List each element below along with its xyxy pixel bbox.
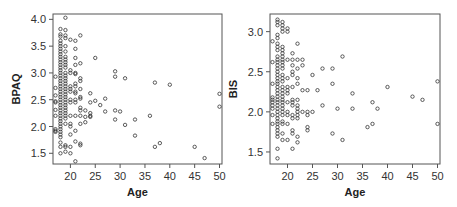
data-point: [74, 140, 77, 143]
data-point: [94, 56, 97, 59]
data-point: [271, 82, 274, 85]
data-point: [331, 82, 334, 85]
data-point: [291, 64, 294, 67]
data-point: [296, 141, 299, 144]
data-point: [271, 122, 274, 125]
x-axis-label: Age: [345, 186, 366, 198]
data-point: [64, 28, 67, 31]
data-point: [306, 89, 309, 92]
data-point: [64, 50, 67, 53]
data-point: [54, 108, 57, 111]
data-point: [291, 85, 294, 88]
data-point: [153, 145, 156, 148]
data-point: [69, 38, 72, 41]
data-point: [316, 89, 319, 92]
data-point: [351, 107, 354, 110]
data-point: [113, 109, 116, 112]
data-point: [113, 118, 116, 121]
data-point: [366, 125, 369, 128]
data-points: [54, 16, 221, 163]
data-point: [133, 118, 136, 121]
data-point: [301, 58, 304, 61]
data-point: [103, 97, 106, 100]
data-point: [218, 105, 221, 108]
bpaq-vs-age-scatter: 1.52.02.53.03.54.0 20253035404550 Age BP…: [10, 13, 226, 198]
y-tick-label: 4.0: [31, 13, 46, 25]
data-point: [336, 107, 339, 110]
data-point: [301, 89, 304, 92]
x-axis-ticks: 20253035404550: [281, 164, 443, 182]
data-point: [69, 133, 72, 136]
data-point: [168, 83, 171, 86]
data-point: [79, 62, 82, 65]
x-tick-label: 30: [114, 170, 126, 182]
data-point: [386, 85, 389, 88]
data-point: [74, 56, 77, 59]
y-axis-ticks: 1.52.02.53.03.54.0: [31, 13, 53, 159]
y-axis-label: BIS: [227, 80, 239, 98]
data-point: [271, 113, 274, 116]
data-point: [59, 35, 62, 38]
data-point: [371, 101, 374, 104]
data-point: [421, 98, 424, 101]
bis-vs-age-scatter: 1.52.02.53.0 20253035404550 Age BIS: [227, 14, 444, 198]
data-point: [291, 58, 294, 61]
data-point: [84, 115, 87, 118]
data-point: [64, 122, 67, 125]
y-tick-label: 2.0: [31, 121, 46, 133]
y-tick-label: 1.5: [31, 147, 46, 159]
x-tick-label: 30: [331, 170, 343, 182]
data-point: [118, 110, 121, 113]
data-point: [153, 81, 156, 84]
data-point: [69, 145, 72, 148]
data-point: [291, 52, 294, 55]
x-tick-label: 20: [281, 170, 293, 182]
data-point: [59, 27, 62, 30]
data-point: [113, 70, 116, 73]
data-point: [99, 103, 102, 106]
data-point: [103, 110, 106, 113]
data-point: [436, 80, 439, 83]
data-point: [89, 101, 92, 104]
data-point: [54, 86, 57, 89]
data-point: [331, 132, 334, 135]
data-point: [79, 34, 82, 37]
data-point: [281, 122, 284, 125]
data-point: [281, 132, 284, 135]
x-tick-label: 40: [164, 170, 176, 182]
data-point: [94, 99, 97, 102]
data-point: [64, 16, 67, 19]
data-point: [296, 42, 299, 45]
plot-frame: [270, 14, 440, 164]
y-axis-label: BPAQ: [10, 73, 22, 104]
data-point: [133, 134, 136, 137]
data-point: [84, 109, 87, 112]
x-axis-label: Age: [127, 186, 148, 198]
data-point: [351, 92, 354, 95]
data-point: [59, 152, 62, 155]
data-point: [321, 104, 324, 107]
data-point: [79, 87, 82, 90]
data-point: [286, 138, 289, 141]
y-axis-ticks: 1.52.02.53.0: [248, 26, 270, 158]
y-tick-label: 2.0: [248, 106, 263, 118]
y-tick-label: 1.5: [248, 146, 263, 158]
data-point: [271, 60, 274, 63]
data-point: [411, 95, 414, 98]
data-point: [271, 40, 274, 43]
data-point: [296, 135, 299, 138]
data-point: [281, 138, 284, 141]
data-point: [89, 92, 92, 95]
data-point: [193, 145, 196, 148]
data-point: [291, 147, 294, 150]
data-point: [113, 75, 116, 78]
x-tick-label: 40: [381, 170, 393, 182]
data-point: [376, 107, 379, 110]
x-tick-label: 35: [356, 170, 368, 182]
data-point: [158, 141, 161, 144]
data-point: [54, 94, 57, 97]
data-point: [64, 44, 67, 47]
data-point: [286, 58, 289, 61]
y-tick-label: 2.5: [31, 94, 46, 106]
x-tick-label: 25: [306, 170, 318, 182]
